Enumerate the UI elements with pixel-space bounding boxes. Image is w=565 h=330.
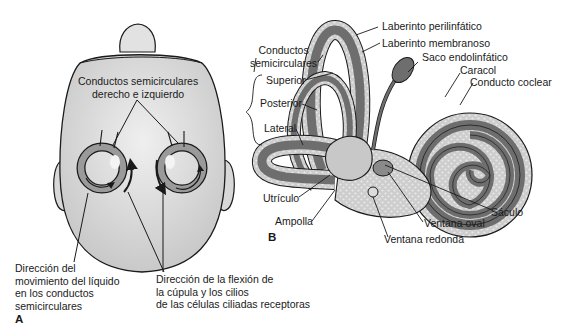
label-canals-right-left: Conductos semicirculares derecho e izqui… bbox=[78, 75, 198, 100]
label-membranous-labyrinth: Laberinto membranoso bbox=[382, 37, 490, 50]
label-fluid-direction: Dirección del movimiento del líquido en … bbox=[15, 262, 119, 312]
label-oval-window: Ventana oval bbox=[424, 217, 485, 230]
label-saccule: Sáculo bbox=[491, 206, 523, 219]
label-ampulla: Ampolla bbox=[275, 215, 313, 228]
label-endolymphatic-sac: Saco endolinfático bbox=[422, 51, 508, 64]
label-perilymphatic-labyrinth: Laberinto perilinfático bbox=[382, 20, 482, 33]
label-cochlear-duct: Conducto coclear bbox=[470, 76, 552, 89]
label-posterior-canal: Posterior bbox=[260, 97, 302, 110]
canals-bracket bbox=[246, 75, 262, 145]
label-semicircular-canals: Conductos semicirculares bbox=[250, 44, 317, 69]
panel-letter-a: A bbox=[15, 313, 23, 325]
panel-letter-b: B bbox=[268, 231, 276, 243]
label-cupula-direction: Dirección de la flexión de la cúpula y l… bbox=[156, 273, 310, 311]
label-utricle: Utrículo bbox=[263, 192, 299, 205]
label-lateral-canal: Lateral bbox=[264, 122, 296, 135]
label-cochlea: Caracol bbox=[460, 64, 496, 77]
label-round-window: Ventana redonda bbox=[384, 233, 464, 246]
label-superior-canal: Superior bbox=[266, 74, 306, 87]
head-illustration bbox=[54, 24, 235, 272]
